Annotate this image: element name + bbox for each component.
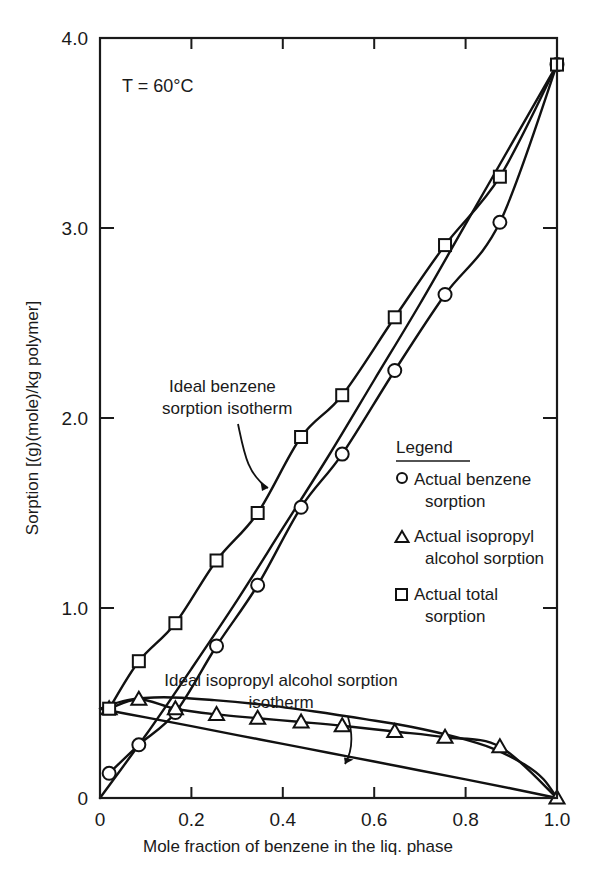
- circle-marker: [103, 767, 116, 780]
- x-tick-label: 0.6: [361, 809, 387, 830]
- square-marker: [295, 431, 307, 443]
- legend-item-total: Actual total sorption: [396, 585, 498, 626]
- x-tick-label: 1.0: [544, 809, 570, 830]
- triangle-marker: [396, 531, 409, 542]
- x-tick-label: 0: [95, 809, 106, 830]
- legend-item-ipa-line1: Actual isopropyl: [414, 527, 534, 546]
- legend-item-benzene-line2: sorption: [425, 492, 485, 511]
- circle-marker: [295, 501, 308, 514]
- y-tick-label: 0: [77, 788, 88, 809]
- legend-item-total-line1: Actual total: [414, 585, 498, 604]
- circle-marker: [397, 473, 407, 483]
- circle-marker: [336, 448, 349, 461]
- series-curve: [109, 65, 557, 774]
- sorption-isotherm-chart: 00.20.40.60.81.0 01.02.03.04.0 T = 60°C …: [0, 0, 596, 877]
- y-tick-label: 3.0: [62, 218, 88, 239]
- circle-marker: [388, 364, 401, 377]
- legend-item-ipa: Actual isopropyl alcohol sorption: [396, 527, 545, 568]
- circle-marker: [251, 579, 264, 592]
- circle-marker: [132, 738, 145, 751]
- annotation-ideal-ipa-line2: isotherm: [248, 693, 313, 712]
- legend-item-ipa-line2: alcohol sorption: [425, 549, 544, 568]
- annotation-ideal-benzene-line1: Ideal benzene: [169, 377, 276, 396]
- legend-item-benzene: Actual benzene sorption: [397, 470, 531, 511]
- square-marker: [169, 617, 181, 629]
- square-marker: [252, 507, 264, 519]
- x-axis-title: Mole fraction of benzene in the liq. pha…: [143, 837, 453, 856]
- annotation-ideal-benzene: Ideal benzene sorption isotherm: [162, 377, 292, 491]
- condition-label: T = 60°C: [122, 76, 193, 96]
- x-tick-label: 0.4: [270, 809, 297, 830]
- x-tick-label: 0.2: [178, 809, 204, 830]
- y-tick-label: 1.0: [62, 598, 88, 619]
- square-marker: [439, 239, 451, 251]
- annotation-ideal-ipa: Ideal isopropyl alcohol sorption isother…: [164, 671, 397, 764]
- x-tick-label: 0.8: [452, 809, 478, 830]
- square-marker: [336, 389, 348, 401]
- circle-marker: [493, 216, 506, 229]
- annotation-ideal-ipa-line1: Ideal isopropyl alcohol sorption: [164, 671, 397, 690]
- square-marker: [133, 655, 145, 667]
- triangle-marker: [492, 739, 507, 752]
- legend-item-total-line2: sorption: [425, 607, 485, 626]
- legend-title: Legend: [396, 438, 453, 457]
- square-marker: [211, 555, 223, 567]
- legend-item-benzene-line1: Actual benzene: [414, 470, 531, 489]
- square-marker: [494, 171, 506, 183]
- square-marker: [389, 311, 401, 323]
- y-axis-title: Sorption [(g)(mole)/kg polymer]: [23, 301, 42, 535]
- y-tick-label: 2.0: [62, 408, 88, 429]
- annotation-ideal-benzene-line2: sorption isotherm: [162, 399, 292, 418]
- x-axis-tick-labels: 00.20.40.60.81.0: [95, 809, 571, 830]
- data-markers: [102, 58, 565, 803]
- circle-marker: [210, 640, 223, 653]
- y-axis-tick-labels: 01.02.03.04.0: [62, 28, 88, 809]
- y-tick-label: 4.0: [62, 28, 88, 49]
- square-marker: [103, 703, 115, 715]
- square-marker: [396, 589, 407, 600]
- annotation-ideal-benzene-leader: [238, 424, 268, 488]
- circle-marker: [439, 288, 452, 301]
- figure-canvas: 00.20.40.60.81.0 01.02.03.04.0 T = 60°C …: [0, 0, 596, 877]
- series-curve: [100, 709, 557, 798]
- legend: Legend Actual benzene sorption Actual is…: [396, 438, 545, 626]
